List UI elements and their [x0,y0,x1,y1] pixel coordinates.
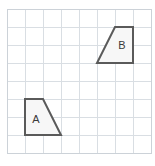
geometry-figure: BA [0,0,155,166]
shape-b-label: B [118,39,125,51]
shape-a-label: A [32,113,40,125]
diagram-canvas: BA [0,0,155,166]
